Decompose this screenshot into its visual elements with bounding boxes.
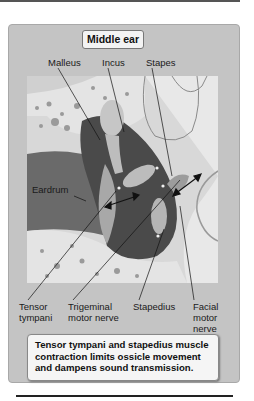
label-trigeminal-line1: Trigeminal	[68, 301, 119, 312]
caption-line2: contraction limits ossicle movement	[35, 351, 211, 363]
label-trigeminal-line2: motor nerve	[68, 312, 119, 323]
caption-box: Tensor tympani and stapedius muscle cont…	[27, 334, 219, 381]
label-stapes: Stapes	[146, 57, 176, 68]
label-tensor-tympani: Tensor tympani	[19, 301, 52, 323]
label-eardrum: Eardrum	[32, 184, 68, 195]
label-facial-line2: motor	[193, 312, 218, 323]
label-facial-line3: nerve	[193, 323, 218, 334]
bottom-rule	[16, 395, 233, 397]
label-tensor-tympani-line2: tympani	[19, 312, 52, 323]
label-malleus: Malleus	[48, 57, 81, 68]
label-trigeminal-motor-nerve: Trigeminal motor nerve	[68, 301, 119, 323]
top-rule	[0, 0, 240, 2]
figure-title: Middle ear	[82, 30, 144, 49]
label-stapedius: Stapedius	[133, 301, 175, 312]
label-incus: Incus	[102, 57, 125, 68]
middle-ear-illustration	[27, 76, 218, 283]
label-facial-motor-nerve: Facial motor nerve	[193, 301, 218, 334]
label-facial-line1: Facial	[193, 301, 218, 312]
caption-line1: Tensor tympani and stapedius muscle	[35, 339, 211, 351]
caption-line3: and dampens sound transmission.	[35, 362, 211, 374]
label-tensor-tympani-line1: Tensor	[19, 301, 52, 312]
